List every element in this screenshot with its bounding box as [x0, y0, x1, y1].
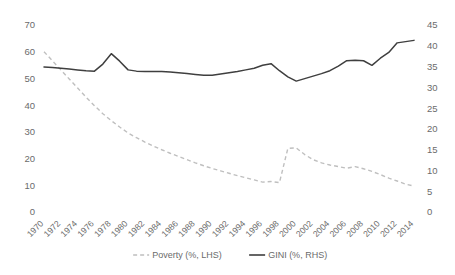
- chart-legend: Poverty (%, LHS)GINI (%, RHS): [133, 250, 327, 260]
- right-axis-tick: 25: [427, 103, 438, 114]
- x-axis-tick: 1982: [126, 218, 147, 239]
- x-axis-tick: 1990: [193, 218, 214, 239]
- right-axis-tick: 20: [427, 123, 438, 134]
- x-axis-tick: 1980: [109, 218, 130, 239]
- left-axis-tick: 0: [30, 206, 35, 217]
- left-axis-tick-labels: 010203040506070: [24, 19, 35, 217]
- x-axis-tick: 1986: [159, 218, 180, 239]
- x-axis-tick: 1996: [243, 218, 264, 239]
- left-axis-tick: 40: [24, 100, 35, 111]
- line-chart: 010203040506070 051015202530354045 19701…: [0, 0, 455, 275]
- right-axis-tick: 0: [427, 206, 432, 217]
- x-axis-tick: 2012: [378, 218, 399, 239]
- left-axis-tick: 30: [24, 126, 35, 137]
- x-axis-tick: 2002: [294, 218, 315, 239]
- series-gini: [44, 40, 414, 81]
- x-axis-tick: 2014: [395, 218, 416, 239]
- left-axis-tick: 50: [24, 73, 35, 84]
- x-axis-tick: 1972: [42, 218, 63, 239]
- legend-label: GINI (%, RHS): [268, 250, 327, 260]
- x-axis-tick: 2000: [277, 218, 298, 239]
- x-axis-tick: 1974: [58, 218, 79, 239]
- x-axis-tick: 1992: [210, 218, 231, 239]
- x-axis-tick: 1984: [143, 218, 164, 239]
- series-poverty: [44, 52, 414, 186]
- x-axis-tick: 1976: [75, 218, 96, 239]
- x-axis-tick: 1988: [176, 218, 197, 239]
- right-axis-tick: 15: [427, 144, 438, 155]
- x-axis-tick: 2004: [311, 218, 332, 239]
- left-axis-tick: 60: [24, 46, 35, 57]
- x-axis-tick: 2008: [344, 218, 365, 239]
- right-axis-tick: 45: [427, 19, 438, 30]
- chart-container: 010203040506070 051015202530354045 19701…: [0, 0, 455, 275]
- right-axis-tick: 40: [427, 40, 438, 51]
- legend-label: Poverty (%, LHS): [152, 250, 222, 260]
- left-axis-tick: 10: [24, 180, 35, 191]
- right-axis-tick-labels: 051015202530354045: [427, 19, 438, 217]
- x-axis-tick: 1978: [92, 218, 113, 239]
- left-axis-tick: 70: [24, 19, 35, 30]
- x-axis-tick: 1994: [227, 218, 248, 239]
- right-axis-tick: 5: [427, 186, 432, 197]
- x-axis-tick: 2010: [361, 218, 382, 239]
- right-axis-tick: 35: [427, 61, 438, 72]
- x-axis-tick: 1970: [25, 218, 46, 239]
- x-axis-tick-labels: 1970197219741976197819801982198419861988…: [25, 218, 416, 239]
- right-axis-tick: 10: [427, 165, 438, 176]
- series-lines: [44, 40, 414, 186]
- x-axis-tick: 1998: [260, 218, 281, 239]
- x-axis-tick: 2006: [328, 218, 349, 239]
- right-axis-tick: 30: [427, 82, 438, 93]
- left-axis-tick: 20: [24, 153, 35, 164]
